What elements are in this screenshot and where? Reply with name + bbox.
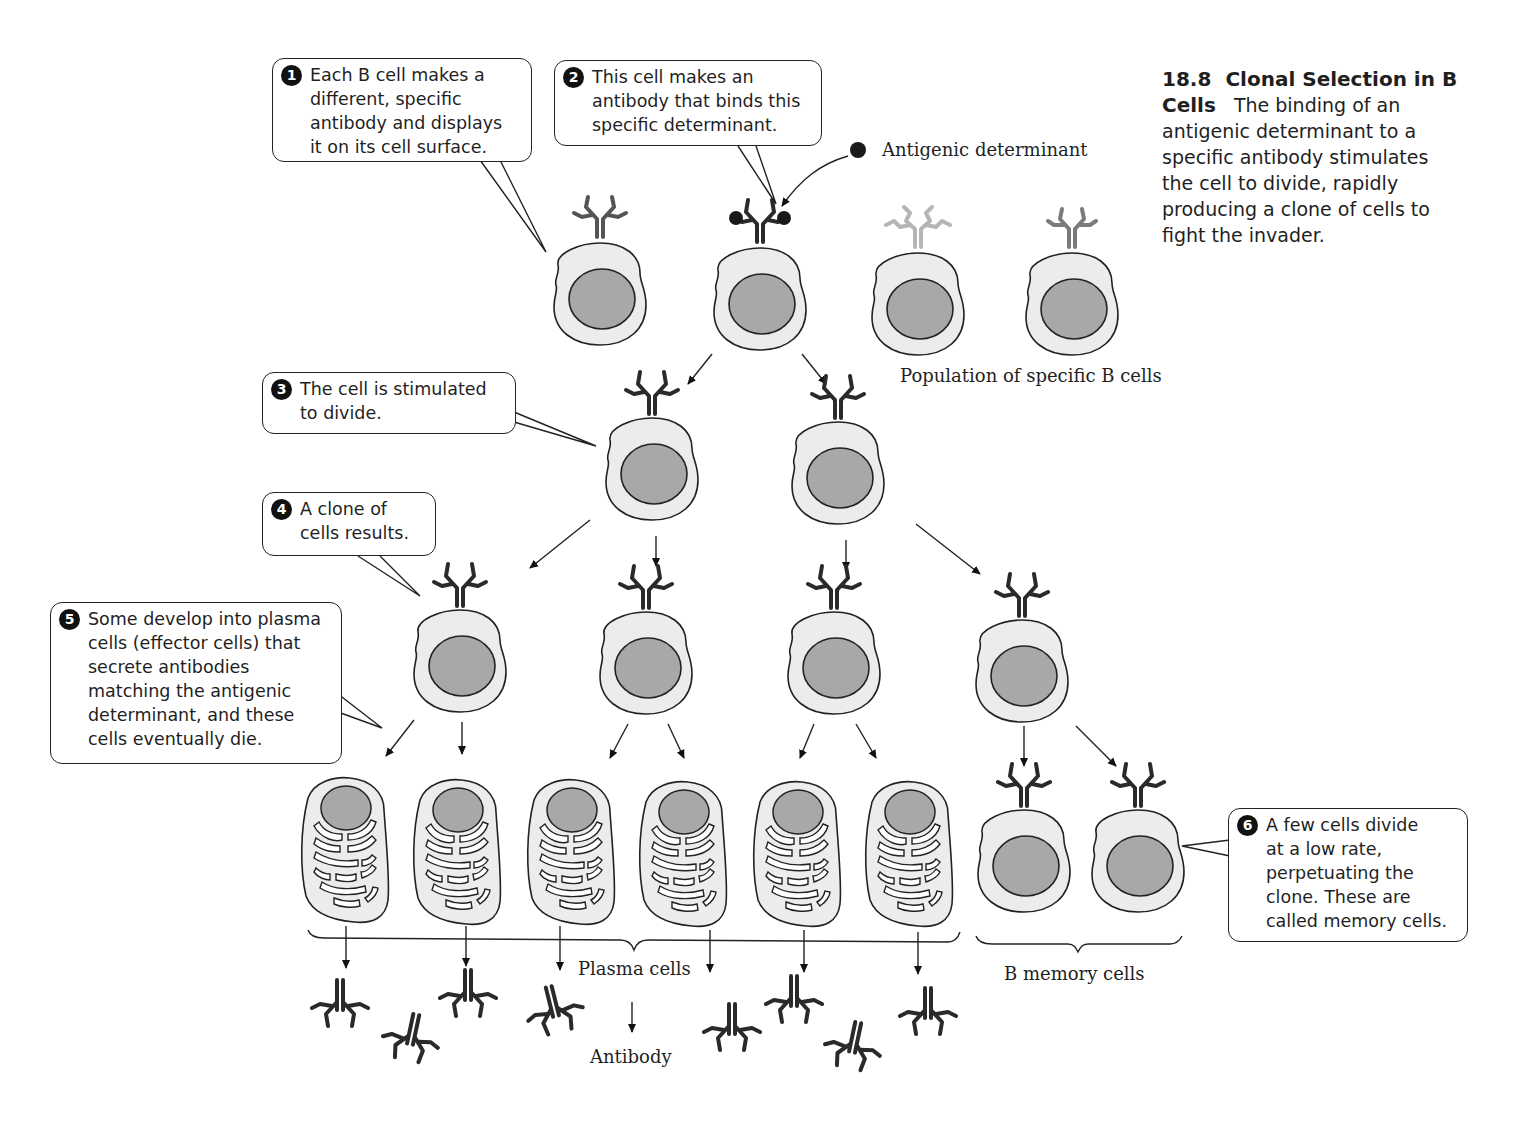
figure-caption: 18.8 Clonal Selection in B Cells The bin… (1162, 66, 1462, 248)
step-number-badge: 4 (271, 499, 292, 520)
plasma-cells-label: Plasma cells (578, 958, 691, 979)
differentiation-arrows (386, 720, 1116, 766)
callout-text: Each B cell makes a different, specific … (283, 63, 521, 159)
b-cell-2-selected (714, 200, 806, 350)
callout-4: 4 A clone of cells results. (262, 492, 436, 556)
division-arrows-1 (688, 354, 826, 384)
antigenic-determinant-icon (850, 142, 866, 158)
callout-text: A clone of cells results. (273, 497, 425, 545)
b-cell-3 (872, 207, 964, 355)
callout-text: A few cells divide at a low rate, perpet… (1239, 813, 1457, 933)
b-cell-4 (1026, 209, 1118, 355)
population-label: Population of specific B cells (900, 365, 1162, 386)
antigen-arrow (782, 156, 848, 206)
callout-6: 6 A few cells divide at a low rate, perp… (1228, 808, 1468, 942)
memory-cells-brace (976, 936, 1182, 952)
memory-cells (978, 764, 1184, 912)
step-number-badge: 3 (271, 379, 292, 400)
callout-text: Some develop into plasma cells (effector… (61, 607, 331, 751)
plasma-cells (302, 778, 953, 927)
antibody-label: Antibody (590, 1046, 672, 1067)
step-number-badge: 5 (59, 609, 80, 630)
memory-cells-label: B memory cells (1004, 963, 1145, 984)
antigenic-determinant-label: Antigenic determinant (882, 139, 1088, 160)
step-number-badge: 6 (1237, 815, 1258, 836)
antigen-bound-right (777, 211, 791, 225)
antigen-bound-left (729, 211, 743, 225)
b-cell-population (554, 197, 1118, 355)
callout-1: 1 Each B cell makes a different, specifi… (272, 58, 532, 162)
step-number-badge: 1 (281, 65, 302, 86)
b-cell-1 (554, 197, 646, 345)
clone-cells (414, 564, 1068, 722)
division-arrows-2 (530, 520, 980, 574)
callout-text: This cell makes an antibody that binds t… (565, 65, 811, 137)
dividing-cells (606, 372, 884, 524)
callout-3: 3 The cell is stimulated to divide. (262, 372, 516, 434)
figure-number: 18.8 (1162, 67, 1211, 91)
callout-2: 2 This cell makes an antibody that binds… (554, 60, 822, 146)
plasma-cells-brace (308, 930, 960, 950)
callout-5: 5 Some develop into plasma cells (effect… (50, 602, 342, 764)
callout-text: The cell is stimulated to divide. (273, 377, 505, 425)
step-number-badge: 2 (563, 67, 584, 88)
